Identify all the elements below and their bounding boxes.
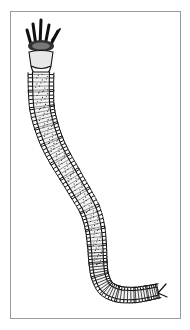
worm-illustration: [0, 0, 190, 330]
